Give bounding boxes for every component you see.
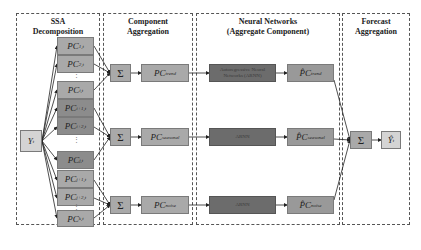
pc-box-i: PCi,t bbox=[57, 81, 94, 99]
pc-box-j-plus-1: PCj+1,t bbox=[57, 170, 94, 188]
pc-label: PC bbox=[68, 85, 80, 95]
input-subscript: t bbox=[33, 139, 34, 144]
sum-noise-box: Σ bbox=[110, 196, 131, 214]
input-yt-box: Yt bbox=[20, 130, 42, 152]
pc-hat-noise-box: P̂Cnoise bbox=[287, 196, 334, 214]
pc-label: PC bbox=[65, 192, 77, 202]
pc-subscript: noise bbox=[165, 203, 176, 208]
pc-label: PC bbox=[67, 214, 79, 224]
sum-seasonal-box: Σ bbox=[110, 128, 131, 146]
sum-trend-box: Σ bbox=[110, 64, 131, 82]
pc-box-i-plus-1: PCi+1,t bbox=[57, 99, 94, 117]
pc-hat-trend-box: P̂Ctrend bbox=[287, 64, 334, 82]
pc-label: PC bbox=[154, 68, 166, 78]
pc-hat-subscript: trend bbox=[311, 71, 321, 76]
pc-subscript: j+1,t bbox=[76, 177, 86, 182]
pc-subscript: 1,t bbox=[79, 44, 84, 49]
pc-subscript: i+2,t bbox=[76, 124, 86, 129]
pc-label: PC bbox=[154, 200, 166, 210]
pc-subscript: trend bbox=[166, 71, 176, 76]
pc-hat-seasonal-box: P̂Cseasonal bbox=[287, 128, 334, 146]
pc-subscript: j+2,t bbox=[76, 195, 86, 200]
pc-label: PC bbox=[65, 103, 77, 113]
pc-box-k: PCk,t bbox=[57, 210, 94, 227]
pc-label: PC bbox=[67, 41, 79, 51]
pc-subscript: i+1,t bbox=[76, 106, 86, 111]
pc-label: PC bbox=[65, 121, 77, 131]
output-subscript: t bbox=[393, 138, 394, 143]
pc-hat-subscript: noise bbox=[311, 203, 322, 208]
pc-box-j: PCj,t bbox=[57, 151, 94, 169]
pc-label: PC bbox=[68, 155, 80, 165]
pc-subscript: k,t bbox=[79, 216, 84, 221]
pc-trend-box: PCtrend bbox=[141, 64, 189, 82]
arnn-noise-box: ARNN bbox=[209, 196, 276, 214]
output-yt-hat-box: Ŷt bbox=[381, 131, 401, 149]
pc-box-i-plus-2: PCi+2,t bbox=[57, 117, 94, 135]
pc-label: PC bbox=[150, 132, 162, 142]
pc-seasonal-box: PCseasonal bbox=[141, 128, 189, 146]
ellipsis: ⋮ bbox=[73, 71, 80, 79]
pc-subscript: seasonal bbox=[162, 135, 180, 140]
ellipsis: ⋮ bbox=[73, 136, 80, 144]
pc-label: PC bbox=[67, 59, 79, 69]
arnn-seasonal-box: ARNN bbox=[209, 128, 276, 146]
arnn-trend-box: Autoregressive Neural Networks (ARNN) bbox=[209, 64, 276, 82]
pc-subscript: i,t bbox=[79, 88, 83, 93]
pc-subscript: j,t bbox=[79, 158, 83, 163]
final-sum-box: Σ bbox=[350, 131, 372, 149]
pc-hat-label: P̂C bbox=[299, 200, 311, 210]
pc-subscript: 2,t bbox=[79, 62, 84, 67]
pc-noise-box: PCnoise bbox=[141, 196, 189, 214]
pc-hat-label: P̂C bbox=[296, 132, 308, 142]
pc-hat-label: P̂C bbox=[300, 68, 312, 78]
pc-box-1: PC1,t bbox=[57, 37, 94, 55]
pc-label: PC bbox=[65, 174, 77, 184]
pc-hat-subscript: seasonal bbox=[308, 135, 326, 140]
